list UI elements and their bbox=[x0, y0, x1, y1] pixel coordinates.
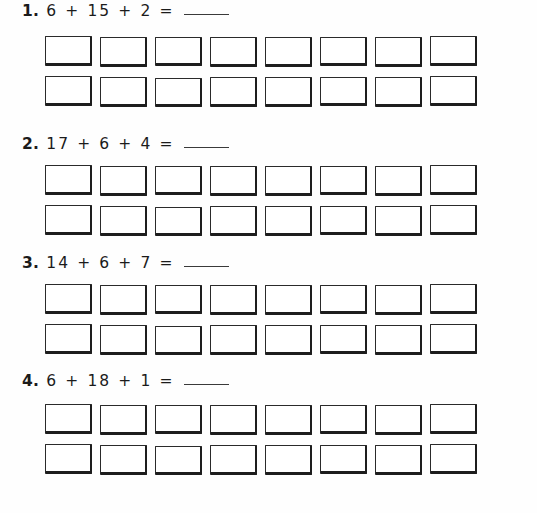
answer-box[interactable] bbox=[210, 77, 257, 107]
answer-box[interactable] bbox=[45, 324, 92, 354]
answer-box[interactable] bbox=[320, 285, 367, 314]
answer-box[interactable] bbox=[265, 405, 312, 435]
answer-box-row bbox=[45, 324, 477, 355]
answer-box[interactable] bbox=[100, 77, 147, 107]
problem-number: 1. bbox=[22, 4, 39, 20]
answer-box[interactable] bbox=[320, 206, 367, 235]
answer-box[interactable] bbox=[210, 166, 257, 196]
answer-box[interactable] bbox=[210, 285, 257, 315]
problem-expression: 6 + 18 + 1 = bbox=[46, 374, 174, 390]
answer-box[interactable] bbox=[210, 206, 257, 236]
answer-box[interactable] bbox=[320, 325, 367, 354]
answer-box-row bbox=[45, 165, 477, 196]
answer-box[interactable] bbox=[210, 325, 257, 355]
problem-expression: 17 + 6 + 4 = bbox=[46, 137, 174, 153]
answer-box[interactable] bbox=[430, 76, 477, 106]
problem-expression: 14 + 6 + 7 = bbox=[46, 256, 174, 272]
answer-box[interactable] bbox=[100, 166, 147, 196]
answer-box[interactable] bbox=[430, 444, 477, 474]
answer-blank[interactable] bbox=[184, 384, 229, 385]
problem-expression: 6 + 15 + 2 = bbox=[46, 4, 174, 20]
answer-box[interactable] bbox=[265, 325, 312, 355]
answer-box-row bbox=[45, 284, 477, 315]
answer-box[interactable] bbox=[375, 37, 422, 67]
problem-number: 3. bbox=[22, 256, 39, 272]
problem-number: 4. bbox=[22, 374, 39, 390]
answer-box[interactable] bbox=[155, 405, 202, 434]
answer-box[interactable] bbox=[430, 284, 477, 314]
answer-box[interactable] bbox=[100, 206, 147, 236]
answer-box[interactable] bbox=[430, 165, 477, 195]
answer-box-row bbox=[45, 205, 477, 236]
answer-box-row bbox=[45, 404, 477, 435]
answer-box[interactable] bbox=[430, 36, 477, 66]
problem-block: 3.14 + 6 + 7 = bbox=[0, 256, 537, 376]
answer-blank[interactable] bbox=[184, 147, 229, 148]
answer-box[interactable] bbox=[45, 76, 92, 106]
problem-block: 2.17 + 6 + 4 = bbox=[0, 137, 537, 257]
answer-box[interactable] bbox=[45, 404, 92, 434]
answer-box[interactable] bbox=[100, 445, 147, 475]
answer-box-grid bbox=[45, 165, 477, 236]
answer-box[interactable] bbox=[320, 37, 367, 66]
problem-number: 2. bbox=[22, 137, 39, 153]
answer-box[interactable] bbox=[375, 206, 422, 236]
answer-box[interactable] bbox=[375, 77, 422, 107]
answer-box-row bbox=[45, 444, 477, 475]
answer-box[interactable] bbox=[45, 444, 92, 474]
answer-box[interactable] bbox=[155, 166, 202, 195]
answer-box[interactable] bbox=[155, 446, 202, 475]
problem-prompt: 3.14 + 6 + 7 = bbox=[22, 256, 229, 278]
answer-box[interactable] bbox=[100, 37, 147, 67]
answer-box[interactable] bbox=[375, 166, 422, 196]
answer-box-row bbox=[45, 76, 477, 107]
answer-box[interactable] bbox=[320, 445, 367, 474]
answer-box[interactable] bbox=[210, 405, 257, 435]
answer-box[interactable] bbox=[375, 325, 422, 355]
problem-prompt: 4.6 + 18 + 1 = bbox=[22, 374, 229, 396]
problem-prompt: 2.17 + 6 + 4 = bbox=[22, 137, 229, 159]
answer-box[interactable] bbox=[155, 207, 202, 236]
answer-box[interactable] bbox=[100, 325, 147, 355]
answer-box[interactable] bbox=[265, 445, 312, 475]
problem-block: 4.6 + 18 + 1 = bbox=[0, 374, 537, 494]
answer-box[interactable] bbox=[100, 285, 147, 315]
answer-box[interactable] bbox=[320, 405, 367, 434]
answer-box-grid bbox=[45, 284, 477, 355]
answer-box[interactable] bbox=[45, 36, 92, 66]
answer-box-grid bbox=[45, 36, 477, 107]
answer-box[interactable] bbox=[155, 285, 202, 314]
answer-box-row bbox=[45, 36, 477, 67]
answer-box[interactable] bbox=[375, 285, 422, 315]
answer-box[interactable] bbox=[45, 165, 92, 195]
answer-blank[interactable] bbox=[184, 14, 229, 15]
answer-box[interactable] bbox=[265, 206, 312, 236]
answer-box[interactable] bbox=[100, 405, 147, 435]
answer-box[interactable] bbox=[320, 77, 367, 106]
answer-box[interactable] bbox=[45, 205, 92, 235]
answer-box[interactable] bbox=[375, 445, 422, 475]
answer-box[interactable] bbox=[210, 37, 257, 67]
answer-box[interactable] bbox=[155, 37, 202, 66]
answer-box[interactable] bbox=[265, 166, 312, 196]
problem-block: 1.6 + 15 + 2 = bbox=[0, 4, 537, 124]
answer-box[interactable] bbox=[210, 445, 257, 475]
answer-box[interactable] bbox=[265, 37, 312, 67]
answer-blank[interactable] bbox=[184, 266, 229, 267]
answer-box[interactable] bbox=[430, 205, 477, 235]
answer-box[interactable] bbox=[375, 405, 422, 435]
worksheet-page: 1.6 + 15 + 2 =2.17 + 6 + 4 =3.14 + 6 + 7… bbox=[0, 0, 537, 513]
problem-prompt: 1.6 + 15 + 2 = bbox=[22, 4, 229, 26]
answer-box-grid bbox=[45, 404, 477, 475]
answer-box[interactable] bbox=[430, 404, 477, 434]
answer-box[interactable] bbox=[45, 284, 92, 314]
answer-box[interactable] bbox=[320, 166, 367, 195]
answer-box[interactable] bbox=[265, 285, 312, 315]
answer-box[interactable] bbox=[265, 77, 312, 107]
answer-box[interactable] bbox=[430, 324, 477, 354]
answer-box[interactable] bbox=[155, 78, 202, 107]
answer-box[interactable] bbox=[155, 326, 202, 355]
